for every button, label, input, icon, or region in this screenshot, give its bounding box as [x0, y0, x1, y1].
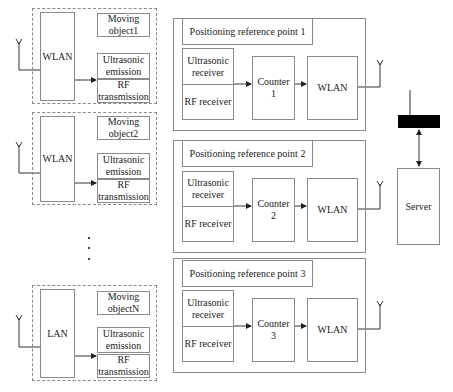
rf-transmission-box: RF transmission	[97, 79, 150, 103]
lan-label: LAN	[47, 328, 68, 340]
rf-receiver-box: RF receiver	[182, 326, 234, 362]
reference-point-title: Positioning reference point 2	[182, 140, 313, 167]
moving-object-label-box: Moving object1	[97, 13, 150, 37]
ultrasonic-emission-box: Ultrasonic emission	[97, 327, 150, 353]
counter-box: Counter 2	[252, 178, 295, 242]
counter-box: Counter 1	[252, 56, 295, 120]
wlan-box: WLAN	[307, 178, 358, 242]
ultrasonic-receiver-box: Ultrasonic receiver	[182, 171, 234, 207]
rf-receiver-box: RF receiver	[182, 84, 234, 120]
wlan-box: WLAN	[307, 298, 358, 362]
moving-object-label-box: Moving object2	[97, 116, 150, 140]
rf-transmission-box: RF transmission	[97, 179, 150, 203]
ultrasonic-receiver-box: Ultrasonic receiver	[182, 290, 234, 327]
ultrasonic-emission-box: Ultrasonic emission	[97, 53, 150, 79]
wlan-label: WLAN	[43, 51, 73, 63]
rf-transmission-box: RF transmission	[97, 354, 150, 378]
ellipsis-dot	[88, 237, 90, 239]
wlan-label: WLAN	[43, 153, 73, 165]
ultrasonic-emission-box: Ultrasonic emission	[97, 153, 150, 179]
ellipsis-dot	[88, 258, 90, 260]
rf-receiver-box: RF receiver	[182, 206, 234, 242]
reference-point-title: Positioning reference point 1	[182, 18, 313, 45]
access-point-bar	[398, 115, 440, 128]
moving-object-label-box: Moving objectN	[97, 291, 150, 315]
server-box: Server	[397, 168, 440, 245]
reference-point-title: Positioning reference point 3	[182, 260, 313, 287]
ultrasonic-receiver-box: Ultrasonic receiver	[182, 48, 234, 85]
counter-box: Counter 3	[252, 298, 295, 362]
wlan-box: WLAN	[307, 56, 358, 120]
ellipsis-dot	[88, 247, 90, 249]
wlan-box: WLAN	[40, 12, 75, 101]
wlan-box: WLAN	[40, 116, 75, 202]
lan-box: LAN	[40, 289, 75, 378]
